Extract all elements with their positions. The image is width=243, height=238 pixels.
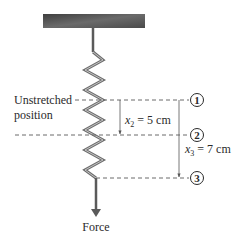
ceiling-support xyxy=(43,14,145,28)
position-marker-2-label: 2 xyxy=(194,129,200,141)
position-marker-3-label: 3 xyxy=(194,172,200,184)
position-marker-1-label: 1 xyxy=(194,94,200,106)
position-marker-3: 3 xyxy=(191,172,204,185)
x2-label: x2 = 5 cm xyxy=(124,113,171,129)
unstretched-label-line2: position xyxy=(14,108,53,122)
position-marker-1: 1 xyxy=(191,94,204,107)
spring-diagram: 1 2 3 x2 = 5 cm x3 = 7 cm Unstretched po… xyxy=(0,0,243,238)
force-label: Force xyxy=(82,220,109,234)
force-arrow-head xyxy=(91,209,101,217)
position-marker-2: 2 xyxy=(191,129,204,142)
x3-label: x3 = 7 cm xyxy=(184,142,231,158)
unstretched-label-line1: Unstretched xyxy=(14,93,72,107)
